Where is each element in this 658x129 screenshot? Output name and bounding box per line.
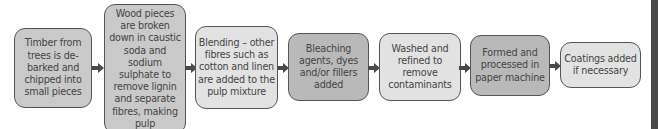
step-5-text: Washed and refined to remove contaminant…	[382, 43, 458, 92]
step-5-washing: Washed and refined to remove contaminant…	[379, 33, 461, 101]
step-4-text: Bleaching agents, dyes and/or fillers ad…	[291, 43, 366, 92]
step-3-blending: Blending – other fibres such as cotton a…	[195, 26, 278, 109]
step-6-text: Formed and processed in paper machine	[473, 47, 547, 84]
step-1-debarking: Timber from trees is de-barked and chipp…	[14, 28, 92, 108]
step-3-text: Blending – other fibres such as cotton a…	[198, 37, 275, 98]
step-2-pulping: Wood pieces are broken down in caustic s…	[104, 4, 186, 129]
step-6-forming: Formed and processed in paper machine	[470, 35, 550, 96]
step-4-bleaching: Bleaching agents, dyes and/or fillers ad…	[288, 33, 369, 101]
arrow-right-icon	[92, 62, 104, 74]
step-1-text: Timber from trees is de-barked and chipp…	[17, 37, 89, 98]
step-2-text: Wood pieces are broken down in caustic s…	[107, 8, 183, 129]
step-7-coating: Coatings added if necessary	[560, 42, 641, 88]
step-7-text: Coatings added if necessary	[563, 53, 638, 77]
page-edge-bar	[651, 0, 658, 129]
